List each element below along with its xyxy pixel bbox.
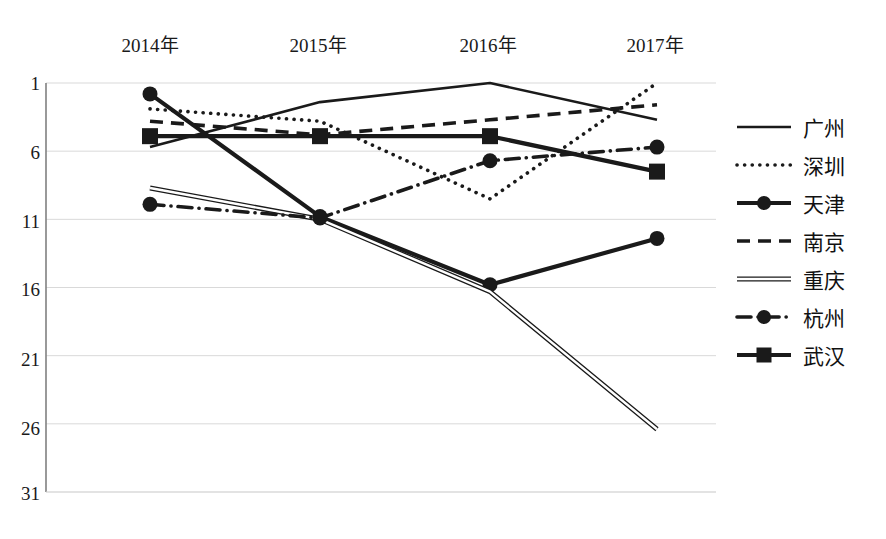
series-line-3: [150, 105, 657, 135]
legend-item-guangzhou[interactable]: 广州: [735, 108, 881, 146]
data-point-marker: [483, 153, 498, 168]
data-point-marker: [143, 86, 158, 101]
line-chart: 2014年 2015年 2016年 2017年 1 6 11 16 21 26 …: [0, 0, 886, 539]
legend-label-hangzhou: 杭州: [793, 302, 845, 332]
data-point-marker: [650, 231, 665, 246]
legend-item-chongqing[interactable]: 重庆: [735, 260, 881, 298]
legend-item-shenzhen[interactable]: 深圳: [735, 146, 881, 184]
series-line-5: [150, 147, 657, 218]
legend-item-wuhan[interactable]: 武汉: [735, 336, 881, 374]
legend-item-nanjing[interactable]: 南京: [735, 222, 881, 260]
legend-label-wuhan: 武汉: [793, 340, 845, 370]
data-point-marker: [142, 128, 158, 144]
legend-swatch-shenzhen: [735, 154, 793, 176]
legend-swatch-hangzhou: [735, 306, 793, 328]
legend-label-guangzhou: 广州: [793, 112, 845, 142]
data-point-marker: [313, 210, 328, 225]
legend-swatch-chongqing: [735, 268, 793, 290]
series-line-6: [150, 136, 657, 171]
legend-item-hangzhou[interactable]: 杭州: [735, 298, 881, 336]
data-series-layer: [142, 83, 665, 429]
series-line-4: [150, 188, 657, 429]
legend-swatch-wuhan: [735, 344, 793, 366]
data-point-marker: [143, 197, 158, 212]
legend-swatch-guangzhou: [735, 116, 793, 138]
legend-label-nanjing: 南京: [793, 226, 845, 256]
legend: 广州 深圳 天津 南京 重庆 杭州 武汉: [735, 108, 881, 374]
legend-label-shenzhen: 深圳: [793, 150, 845, 180]
series-line-1: [150, 83, 657, 199]
data-point-marker: [650, 140, 665, 155]
legend-item-tianjin[interactable]: 天津: [735, 184, 881, 222]
data-point-marker: [649, 164, 665, 180]
data-point-marker: [312, 128, 328, 144]
legend-swatch-nanjing: [735, 230, 793, 252]
gridlines: [46, 83, 716, 492]
legend-label-tianjin: 天津: [793, 188, 845, 218]
data-point-marker: [482, 128, 498, 144]
legend-swatch-tianjin: [735, 192, 793, 214]
legend-label-chongqing: 重庆: [793, 264, 845, 294]
series-line-inner-4: [150, 188, 657, 429]
